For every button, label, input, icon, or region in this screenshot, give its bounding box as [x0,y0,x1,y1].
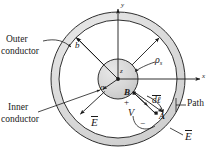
outer-conductor-label-line1: Outer [6,35,28,45]
point-b-marker [133,92,136,95]
surface-charge-leader [135,62,155,72]
z-axis-label: z [120,68,123,75]
efield-label-1: E [91,115,98,129]
voltage-label: V [128,108,134,119]
x-axis-label: x [202,73,205,80]
dl-ell-symbol: ℓ [157,95,161,105]
inner-radius-label: a [100,83,105,92]
dl-overbar: dℓ [152,95,161,106]
path-label: Path [187,99,204,109]
dl-vector-label: dℓ [152,94,161,106]
coax-cross-section-figure [0,0,211,156]
outer-conductor-label-line2: conductor [1,47,39,57]
outer-radius-label: b [75,41,80,50]
radius-b-arrow [76,37,118,79]
efield-label-2: E [185,129,192,143]
minus-sign-label: − [140,119,145,128]
inner-conductor-label-line1: Inner [8,103,28,113]
efield-overbar-1: E [91,116,98,129]
point-a-marker [155,112,158,115]
point-a-label: A [159,112,165,121]
efield-overbar-2: E [185,130,192,143]
voltage-symbol: V [128,107,134,118]
efield-symbol-2: E [185,130,192,142]
rho-subscript: s [160,59,163,66]
surface-charge-density-label: ρs [155,55,162,67]
efield-label-leader [170,128,183,135]
y-axis-label: y [121,2,124,9]
efield-symbol-1: E [91,116,98,128]
inner-conductor-label-line2: conductor [1,115,39,125]
inner-conductor-leader [38,90,100,112]
